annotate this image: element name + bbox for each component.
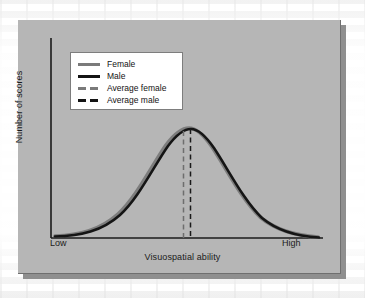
- x-axis-label: Visuospatial ability: [0, 252, 365, 262]
- legend-swatch-female-icon: [78, 58, 100, 70]
- legend-label-average-male: Average male: [107, 94, 159, 106]
- legend-label-female: Female: [107, 58, 135, 70]
- legend-swatch-male-icon: [78, 70, 100, 82]
- legend-swatch-average-female-icon: [78, 82, 100, 94]
- legend-item-average-male: Average male: [71, 94, 182, 106]
- x-tick-label-high: High: [282, 238, 301, 248]
- x-tick-label-low: Low: [50, 238, 67, 248]
- legend-label-male: Male: [107, 70, 125, 82]
- chart-legend: Female Male Average female Average male: [70, 52, 183, 110]
- legend-item-average-female: Average female: [71, 82, 182, 94]
- legend-item-female: Female: [71, 58, 182, 70]
- legend-item-male: Male: [71, 70, 182, 82]
- y-axis-label: Number of scores: [14, 52, 24, 162]
- legend-swatch-average-male-icon: [78, 94, 100, 106]
- legend-label-average-female: Average female: [107, 82, 166, 94]
- figure-container: Number of scores Visuospatial ability Lo…: [0, 0, 365, 298]
